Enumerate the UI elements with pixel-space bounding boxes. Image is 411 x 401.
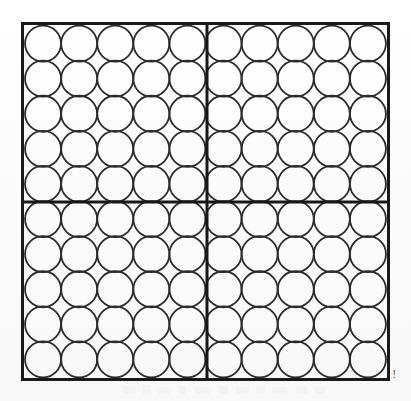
- grid-circle-r10-c7: [242, 341, 278, 377]
- grid-circle-r9-c8: [278, 306, 314, 342]
- grid-circle-r7-c6: [206, 236, 242, 272]
- circle-grid-svg: [21, 22, 390, 381]
- ghost-smudge-11: [314, 387, 326, 394]
- grid-circle-r2-c3: [97, 61, 133, 97]
- grid-circle-r9-c10: [350, 306, 386, 342]
- grid-circle-r1-c2: [61, 26, 97, 62]
- grid-circle-r5-c9: [314, 166, 350, 202]
- grid-circle-r8-c1: [25, 271, 61, 307]
- grid-circle-r5-c1: [25, 166, 61, 202]
- grid-circle-r9-c5: [169, 306, 205, 342]
- grid-circle-r3-c3: [97, 96, 133, 132]
- grid-circle-r3-c1: [25, 96, 61, 132]
- grid-circle-r9-c3: [97, 306, 133, 342]
- grid-circle-r6-c8: [278, 201, 314, 237]
- grid-circle-r4-c9: [314, 131, 350, 167]
- ghost-smudge-10: [296, 386, 307, 394]
- grid-circle-r5-c8: [278, 166, 314, 202]
- grid-circle-r7-c8: [278, 236, 314, 272]
- grid-circle-r2-c1: [25, 61, 61, 97]
- grid-circle-r1-c8: [278, 26, 314, 62]
- grid-circle-r6-c9: [314, 201, 350, 237]
- grid-circle-r6-c5: [169, 201, 205, 237]
- grid-circle-r8-c10: [350, 271, 386, 307]
- grid-circle-r4-c4: [133, 131, 169, 167]
- grid-circle-r5-c4: [133, 166, 169, 202]
- grid-circle-r10-c4: [133, 341, 169, 377]
- grid-circle-r5-c5: [169, 166, 205, 202]
- grid-circle-r3-c8: [278, 96, 314, 132]
- grid-circle-r7-c4: [133, 236, 169, 272]
- figure-canvas: !: [0, 0, 411, 401]
- grid-circle-r7-c1: [25, 236, 61, 272]
- grid-circle-r5-c7: [242, 166, 278, 202]
- grid-circle-r10-c2: [61, 341, 97, 377]
- grid-circle-r4-c7: [242, 131, 278, 167]
- grid-circle-r3-c5: [169, 96, 205, 132]
- grid-circle-r4-c5: [169, 131, 205, 167]
- grid-circle-r2-c4: [133, 61, 169, 97]
- grid-circle-r1-c5: [169, 26, 205, 62]
- ghost-smudge-8: [256, 386, 265, 394]
- grid-circle-r2-c10: [350, 61, 386, 97]
- grid-circle-r4-c8: [278, 131, 314, 167]
- grid-circle-r8-c5: [169, 271, 205, 307]
- grid-circle-r3-c6: [206, 96, 242, 132]
- grid-circle-r7-c3: [97, 236, 133, 272]
- grid-circle-r10-c5: [169, 341, 205, 377]
- grid-circle-r7-c10: [350, 236, 386, 272]
- grid-circle-r5-c3: [97, 166, 133, 202]
- grid-circle-r5-c6: [206, 166, 242, 202]
- grid-circle-r2-c5: [169, 61, 205, 97]
- grid-circle-r2-c9: [314, 61, 350, 97]
- grid-circle-r4-c1: [25, 131, 61, 167]
- grid-circle-r2-c7: [242, 61, 278, 97]
- grid-circle-r1-c9: [314, 26, 350, 62]
- circle-grid-figure: [21, 22, 390, 381]
- grid-circle-r4-c3: [97, 131, 133, 167]
- grid-circle-r8-c3: [97, 271, 133, 307]
- grid-circle-r5-c10: [350, 166, 386, 202]
- grid-circle-r4-c6: [206, 131, 242, 167]
- grid-circle-r3-c10: [350, 96, 386, 132]
- grid-circle-r1-c3: [97, 26, 133, 62]
- grid-circle-r10-c8: [278, 341, 314, 377]
- grid-circle-r3-c4: [133, 96, 169, 132]
- grid-circle-r1-c4: [133, 26, 169, 62]
- grid-circle-r2-c8: [278, 61, 314, 97]
- ghost-smudge-2: [142, 385, 151, 394]
- grid-circle-r6-c7: [242, 201, 278, 237]
- grid-circle-r6-c1: [25, 201, 61, 237]
- grid-circle-r1-c1: [25, 26, 61, 62]
- grid-circle-r6-c4: [133, 201, 169, 237]
- grid-circle-r2-c6: [206, 61, 242, 97]
- grid-circle-r3-c9: [314, 96, 350, 132]
- grid-circle-r9-c9: [314, 306, 350, 342]
- grid-circle-r10-c3: [97, 341, 133, 377]
- ghost-smudge-1: [122, 386, 136, 394]
- grid-circle-r6-c6: [206, 201, 242, 237]
- grid-circle-r9-c7: [242, 306, 278, 342]
- ghost-smudge-row: [120, 385, 330, 395]
- grid-circle-r4-c2: [61, 131, 97, 167]
- grid-circle-r4-c10: [350, 131, 386, 167]
- ghost-smudge-6: [218, 386, 228, 394]
- scan-artifact-exclamation-icon: !: [392, 367, 396, 381]
- grid-circle-r6-c3: [97, 201, 133, 237]
- grid-circle-r1-c7: [242, 26, 278, 62]
- grid-circle-r6-c2: [61, 201, 97, 237]
- ghost-smudge-7: [236, 387, 249, 394]
- grid-circle-r8-c8: [278, 271, 314, 307]
- grid-circle-r8-c9: [314, 271, 350, 307]
- grid-circle-r7-c9: [314, 236, 350, 272]
- grid-circle-r9-c1: [25, 306, 61, 342]
- grid-circle-r10-c6: [206, 341, 242, 377]
- grid-circle-r8-c2: [61, 271, 97, 307]
- grid-circle-r3-c7: [242, 96, 278, 132]
- frame-layer: [23, 24, 389, 380]
- grid-circle-r7-c7: [242, 236, 278, 272]
- grid-circle-r10-c9: [314, 341, 350, 377]
- grid-circle-r1-c6: [206, 26, 242, 62]
- grid-circle-r1-c10: [350, 26, 386, 62]
- grid-circle-r3-c2: [61, 96, 97, 132]
